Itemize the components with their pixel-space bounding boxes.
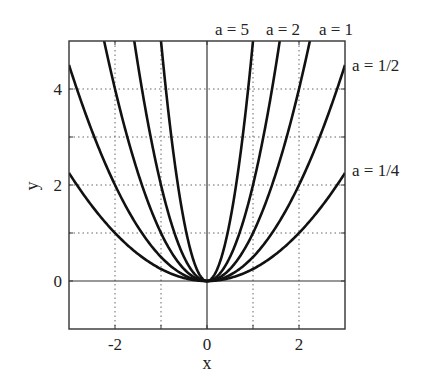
ytick-label-0: 0: [54, 272, 63, 291]
annotation-a1-2: a = 1/2: [352, 56, 399, 75]
ytick-label-2: 2: [54, 176, 63, 195]
xtick-label-2: 2: [295, 335, 304, 354]
annotation-a2: a = 2: [266, 20, 300, 39]
y-axis-label: y: [22, 182, 42, 191]
xtick-label-0: 0: [203, 335, 212, 354]
xtick-label-neg2: -2: [108, 335, 122, 354]
ytick-label-4: 4: [54, 80, 63, 99]
annotation-a1-4: a = 1/4: [352, 161, 400, 180]
parabola-chart: -2 0 2 0 2 4 x y a = 5 a = 2 a = 1 a = 1…: [0, 0, 421, 389]
annotation-a1: a = 1: [319, 20, 353, 39]
x-axis-label: x: [203, 353, 212, 373]
annotation-a5: a = 5: [215, 20, 249, 39]
